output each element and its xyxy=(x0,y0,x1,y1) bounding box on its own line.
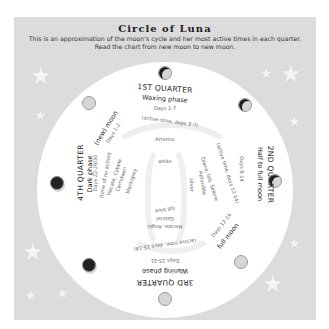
moon-bottom-full-icon xyxy=(158,292,172,306)
moon-bottom-left-dark-icon xyxy=(82,258,96,272)
chart-title: Circle of Luna xyxy=(14,23,316,34)
star-icon: ★ xyxy=(288,114,301,128)
moon-top-crescent-icon xyxy=(158,66,172,80)
header: Circle of Luna This is an approximation … xyxy=(14,17,316,51)
star-icon: ★ xyxy=(260,66,273,80)
star-icon: ★ xyxy=(30,64,52,88)
first-quarter-goddess: Artemis xyxy=(140,136,190,142)
second-quarter-phase: Half to full moon xyxy=(256,134,264,214)
third-quarter-goddess: Hecate, Anglo xyxy=(130,224,200,230)
star-icon: ★ xyxy=(280,62,302,86)
fourth-quarter-title: 4TH QUARTER xyxy=(76,133,85,213)
star-icon: ★ xyxy=(262,272,284,296)
star-icon: ★ xyxy=(56,286,69,300)
moon-left-dark-icon xyxy=(50,176,64,190)
chart-subtitle: This is an approximation of the moon's c… xyxy=(14,35,316,51)
third-quarter-title: 3RD QUARTER xyxy=(125,278,205,287)
second-quarter-title: 2ND QUARTER xyxy=(266,135,275,215)
moon-top-right-crescent-icon xyxy=(238,98,252,112)
third-quarter-goddess-2: Gabriel xyxy=(135,216,195,222)
first-quarter-days: Days 1-7 xyxy=(125,105,205,111)
second-quarter-days: Days 8-14 xyxy=(239,139,245,199)
third-quarter-phase: Waning phase xyxy=(125,267,205,275)
star-icon: ★ xyxy=(22,240,44,264)
third-quarter-days: Days 15-21 xyxy=(125,258,205,264)
star-icon: ★ xyxy=(288,236,301,250)
subtitle-line-1: This is an approximation of the moon's c… xyxy=(16,35,314,43)
moon-top-left-full-icon xyxy=(82,96,96,110)
first-quarter-color: white xyxy=(140,158,190,164)
star-icon: ★ xyxy=(34,108,47,122)
subtitle-line-2: Read the chart from new moon to new moon… xyxy=(16,43,314,51)
moon-bottom-right-full-icon xyxy=(234,255,248,269)
star-icon: ★ xyxy=(24,288,37,302)
